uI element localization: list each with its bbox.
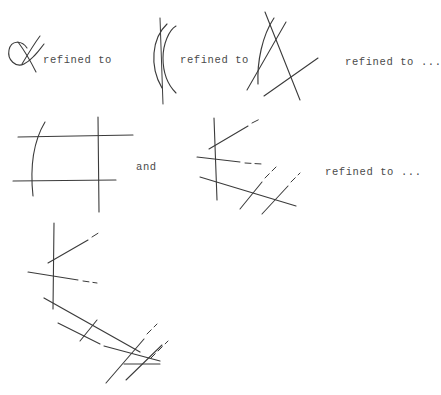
arc-with-two-chords-sketch	[247, 12, 318, 100]
figure-root: refined to refined to refined to ... and…	[0, 0, 441, 395]
label-refined-to-4: refined to ...	[325, 167, 422, 178]
label-refined-to-3: refined to ...	[345, 57, 441, 68]
dashed-crossings-sketch	[197, 118, 300, 214]
grid-with-arc-sketch	[13, 117, 133, 212]
arc-with-vertical-line-sketch	[154, 18, 176, 104]
label-refined-to-1: refined to	[43, 55, 112, 66]
alpha-loop-sketch	[9, 36, 44, 72]
label-refined-to-2: refined to	[180, 55, 249, 66]
label-and: and	[136, 162, 157, 173]
chain-of-crossings-sketch	[28, 223, 168, 383]
